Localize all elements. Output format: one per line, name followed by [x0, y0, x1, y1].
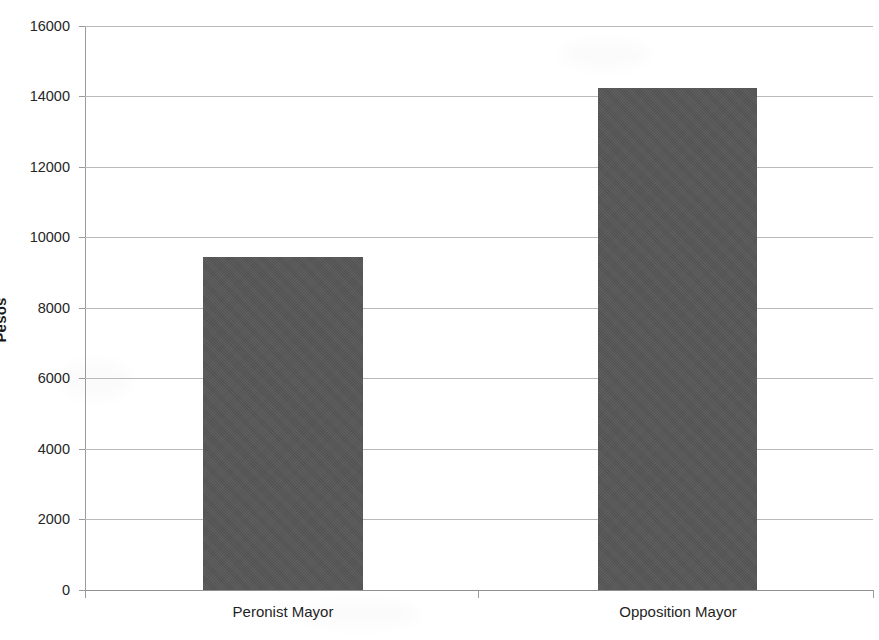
y-tick-label-2000: 2000: [0, 511, 70, 527]
y-tick-label-6000: 6000: [0, 370, 70, 386]
y-tick-label-16000: 16000: [0, 18, 70, 34]
bar-peronist-mayor[interactable]: [203, 257, 363, 590]
x-tick-left: [85, 590, 86, 598]
y-tick-label-0: 0: [0, 582, 70, 598]
x-category-label-peronist-mayor: Peronist Mayor: [233, 603, 334, 620]
x-axis-line: [85, 590, 874, 591]
x-category-label-opposition-mayor: Opposition Mayor: [619, 603, 737, 620]
x-tick-middle: [478, 590, 479, 598]
bar-opposition-mayor[interactable]: [598, 88, 757, 590]
y-tick-label-12000: 12000: [0, 159, 70, 175]
bar-chart: Pesos 16000 14000 12000 10000 8000 6000 …: [0, 0, 879, 640]
y-tick-label-4000: 4000: [0, 441, 70, 457]
y-tick-label-10000: 10000: [0, 229, 70, 245]
x-tick-right: [873, 590, 874, 598]
y-tick-label-14000: 14000: [0, 88, 70, 104]
gridline-16000: [85, 26, 873, 27]
y-tick-label-8000: 8000: [0, 300, 70, 316]
plot-area: [85, 26, 873, 590]
